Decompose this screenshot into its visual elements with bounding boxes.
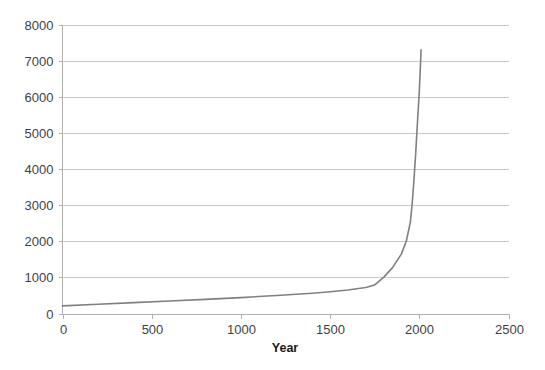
chart-container: 010002000300040005000600070008000 050010… — [0, 0, 545, 370]
x-tick-label: 500 — [142, 322, 164, 337]
y-tick-label: 2000 — [25, 234, 54, 249]
x-tick-label: 1000 — [227, 322, 256, 337]
y-tick-label: 1000 — [25, 270, 54, 285]
y-tick-label: 4000 — [25, 162, 54, 177]
x-tick-label: 1500 — [316, 322, 345, 337]
x-axis-title: Year — [272, 341, 299, 355]
line-chart-plot: 010002000300040005000600070008000 050010… — [0, 0, 545, 370]
x-tick-label: 2000 — [405, 322, 434, 337]
y-tick-label: 7000 — [25, 54, 54, 69]
x-tick-label: 0 — [60, 322, 67, 337]
y-tick-label: 8000 — [25, 18, 54, 33]
y-tick-label: 6000 — [25, 90, 54, 105]
y-tick-label: 3000 — [25, 198, 54, 213]
x-tick-label: 2500 — [495, 322, 524, 337]
y-tick-label: 0 — [46, 307, 53, 322]
y-tick-label: 5000 — [25, 126, 54, 141]
